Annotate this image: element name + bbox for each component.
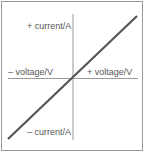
- x-positive-label: + voltage/V: [87, 67, 132, 77]
- y-positive-label: + current/A: [27, 21, 71, 31]
- y-negative-label: – current/A: [27, 127, 71, 137]
- x-negative-label: – voltage/V: [8, 67, 53, 77]
- iv-graph: [0, 0, 146, 154]
